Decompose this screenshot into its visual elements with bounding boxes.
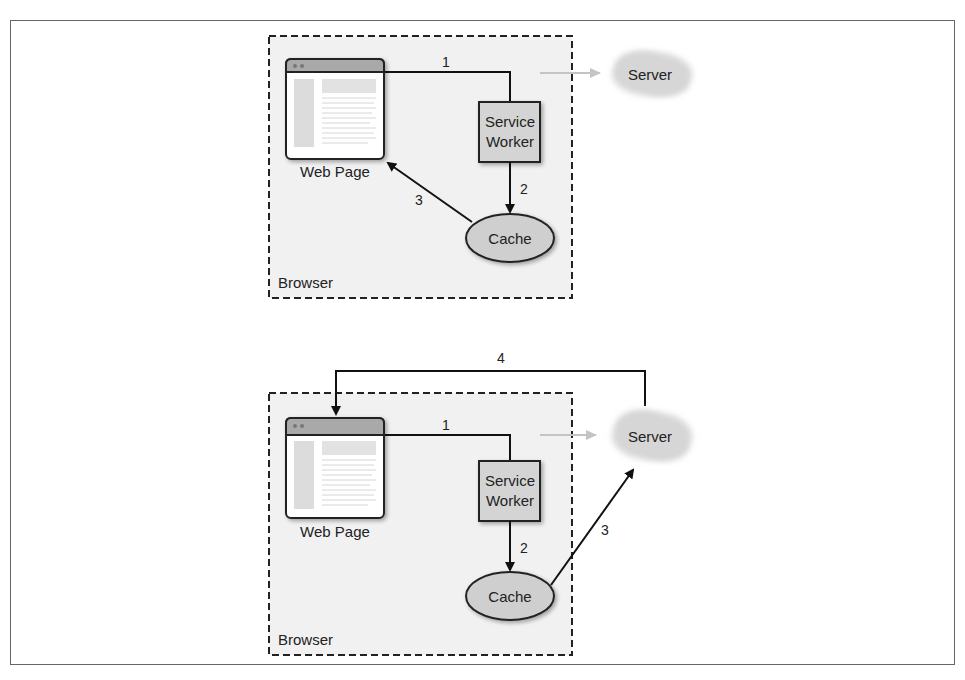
service-worker-label-line2: Worker [486,492,534,509]
step-1-label: 1 [442,54,450,70]
service-worker-box [479,461,540,521]
service-worker-label-line1: Service [485,113,535,130]
step-1-label: 1 [442,417,450,433]
cache-label: Cache [488,588,531,605]
service-worker-box [479,102,540,162]
browser-label: Browser [278,274,333,291]
server-label: Server [628,66,672,83]
step-4-label: 4 [497,350,505,366]
step-3-label: 3 [601,522,609,538]
web-page-label: Web Page [300,163,370,180]
step-3-label: 3 [415,192,423,208]
service-worker-label-line1: Service [485,472,535,489]
figure-frame: Server 1 Web Page Service Worker [0,0,965,680]
web-page-label: Web Page [300,523,370,540]
web-page-window [286,59,384,159]
web-page-window [286,418,384,518]
cache-label: Cache [488,230,531,247]
browser-label: Browser [278,631,333,648]
service-worker-label-line2: Worker [486,133,534,150]
step-2-label: 2 [520,181,528,197]
server-label: Server [628,428,672,445]
step-2-label: 2 [520,540,528,556]
